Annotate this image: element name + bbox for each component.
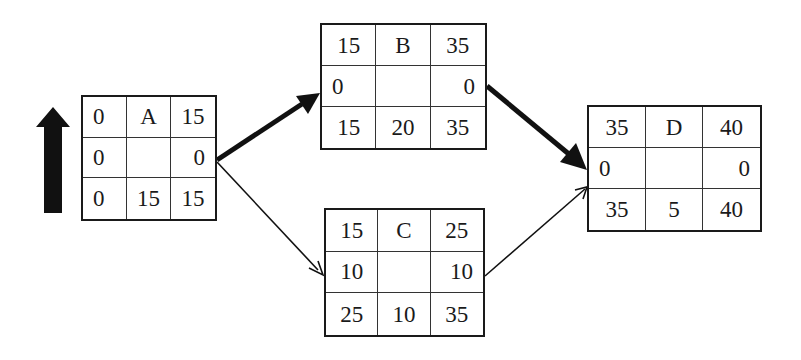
up-arrow-icon (36, 107, 70, 213)
duration: 5 (646, 189, 703, 230)
finish-slack: 10 (431, 252, 483, 294)
edge-a-to-b (217, 93, 320, 160)
edge-a-to-c (217, 162, 323, 275)
activity-name: B (376, 25, 430, 66)
edge-c-to-d (485, 187, 587, 276)
duration: 10 (378, 293, 430, 335)
early-start: 35 (589, 107, 646, 148)
early-start: 0 (83, 97, 127, 138)
late-finish: 35 (431, 107, 485, 148)
early-start: 15 (326, 210, 378, 252)
blank-cell (127, 138, 171, 179)
activity-name: A (127, 97, 171, 138)
late-start: 0 (83, 178, 127, 219)
node-a: 0 A 15 0 0 0 15 15 (81, 95, 217, 221)
blank-cell (378, 252, 430, 294)
finish-slack: 0 (431, 66, 485, 107)
finish-slack: 0 (703, 148, 760, 189)
duration: 15 (127, 178, 171, 219)
network-diagram: 0 A 15 0 0 0 15 15 15 B 35 0 0 15 20 35 … (0, 0, 801, 360)
start-slack: 0 (83, 138, 127, 179)
early-finish: 15 (171, 97, 215, 138)
late-start: 25 (326, 293, 378, 335)
early-finish: 40 (703, 107, 760, 148)
early-start: 15 (322, 25, 376, 66)
late-finish: 40 (703, 189, 760, 230)
early-finish: 35 (431, 25, 485, 66)
duration: 20 (376, 107, 430, 148)
blank-cell (376, 66, 430, 107)
late-start: 15 (322, 107, 376, 148)
early-finish: 25 (431, 210, 483, 252)
activity-name: C (378, 210, 430, 252)
node-b: 15 B 35 0 0 15 20 35 (320, 23, 487, 150)
start-slack: 0 (322, 66, 376, 107)
node-c: 15 C 25 10 10 25 10 35 (324, 208, 485, 337)
finish-slack: 0 (171, 138, 215, 179)
blank-cell (646, 148, 703, 189)
late-finish: 35 (431, 293, 483, 335)
start-slack: 10 (326, 252, 378, 294)
activity-name: D (646, 107, 703, 148)
node-d: 35 D 40 0 0 35 5 40 (587, 105, 762, 232)
late-finish: 15 (171, 178, 215, 219)
start-slack: 0 (589, 148, 646, 189)
edge-b-to-d (487, 86, 587, 170)
late-start: 35 (589, 189, 646, 230)
